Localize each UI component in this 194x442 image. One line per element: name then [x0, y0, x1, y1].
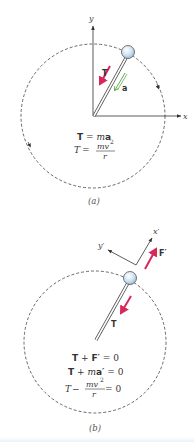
equation-b-3: T − mv 2 r = 0 — [65, 376, 121, 399]
circular-motion-diagram: y x T a T = ma T = mv 2 r (a) — [0, 0, 194, 442]
y-prime-axis — [108, 250, 136, 265]
panel-b: x′ y′ F′ T T + F′ = 0 T + ma′ = 0 T − mv… — [24, 227, 167, 433]
x-prime-label: x′ — [153, 227, 160, 236]
svg-text:T: T — [74, 145, 81, 155]
svg-text:r: r — [103, 152, 108, 161]
svg-text:mv: mv — [97, 142, 110, 151]
fictitious-force-label: F′ — [159, 249, 167, 258]
tension-arrow-b — [121, 296, 131, 313]
svg-text:r: r — [92, 390, 97, 399]
ball-b — [124, 272, 137, 285]
caption-b: (b) — [89, 423, 101, 433]
equation-b-2: T + ma′ = 0 — [68, 367, 124, 377]
svg-text:2: 2 — [110, 138, 114, 145]
svg-text:T: T — [65, 384, 72, 394]
y-prime-label: y′ — [97, 241, 105, 250]
fictitious-force-arrow — [145, 249, 156, 269]
panel-a: y x T a T = ma T = mv 2 r (a) — [21, 14, 188, 206]
caption-a: (a) — [88, 196, 100, 206]
y-axis-label: y — [88, 14, 94, 23]
tension-label-b: T — [111, 320, 117, 329]
svg-text:mv: mv — [86, 380, 99, 389]
acceleration-label-a: a — [122, 84, 127, 93]
x-axis-label: x — [183, 112, 188, 121]
equation-a-1: T = ma — [77, 132, 111, 142]
svg-text:2: 2 — [100, 376, 104, 383]
svg-text:= 0: = 0 — [105, 384, 121, 394]
rod-b — [96, 283, 128, 340]
svg-text:=: = — [82, 145, 90, 155]
equation-b-1: T + F′ = 0 — [72, 353, 119, 363]
bottom-edge-band — [0, 437, 194, 442]
svg-text:−: − — [72, 384, 80, 394]
ball-a — [122, 46, 135, 59]
tension-label-a: T — [102, 69, 108, 78]
path-direction-arrow-icon — [28, 142, 30, 146]
